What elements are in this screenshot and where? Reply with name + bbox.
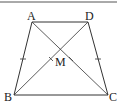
label-C: C: [109, 90, 117, 104]
tick-mark-MC: [69, 57, 73, 61]
diagram-canvas: A D B C M: [0, 0, 124, 112]
label-B: B: [4, 90, 12, 104]
segment-AB: [14, 22, 32, 95]
trapezoid-diagram: A D B C M: [0, 0, 124, 112]
label-D: D: [85, 9, 94, 23]
label-M: M: [55, 55, 66, 69]
label-A: A: [27, 9, 36, 23]
segment-DC: [88, 22, 108, 95]
